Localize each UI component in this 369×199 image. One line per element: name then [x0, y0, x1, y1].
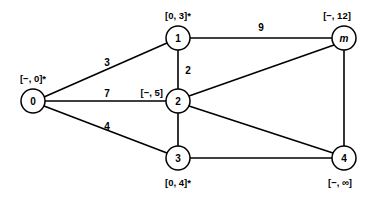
edges-group: [44, 38, 344, 158]
edge-weight-1-2: 2: [185, 65, 191, 76]
edge-weight-1-m: 9: [258, 22, 264, 33]
node-label-2: 2: [175, 96, 181, 107]
node-label-1: 1: [175, 33, 181, 44]
node-label-0: 0: [30, 96, 36, 107]
node-annotation-4: [−, ∞]: [328, 177, 352, 188]
node-annotation-3: [0, 4]*: [165, 177, 191, 188]
nodes-group: 0123m4: [21, 26, 356, 170]
node-annotation-0: [−, 0]*: [20, 73, 46, 84]
graph-diagram: 37429 0123m4 [−, 0]*[0, 3]*[−, 5][0, 4]*…: [0, 0, 369, 199]
node-label-3: 3: [175, 153, 181, 164]
edge-weight-0-1: 3: [104, 57, 110, 68]
edge-weight-0-3: 4: [104, 121, 110, 132]
node-annotation-1: [0, 3]*: [165, 10, 191, 21]
node-annotation-m: [−, 12]: [323, 10, 351, 21]
edge-weight-0-2: 7: [104, 88, 110, 99]
node-annotation-2: [−, 5]: [141, 87, 163, 98]
graph-canvas: 37429 0123m4 [−, 0]*[0, 3]*[−, 5][0, 4]*…: [0, 0, 369, 199]
edge-2-4: [189, 106, 333, 153]
edge-2-m: [189, 45, 334, 96]
node-label-m: m: [340, 33, 349, 44]
node-label-4: 4: [341, 153, 347, 164]
